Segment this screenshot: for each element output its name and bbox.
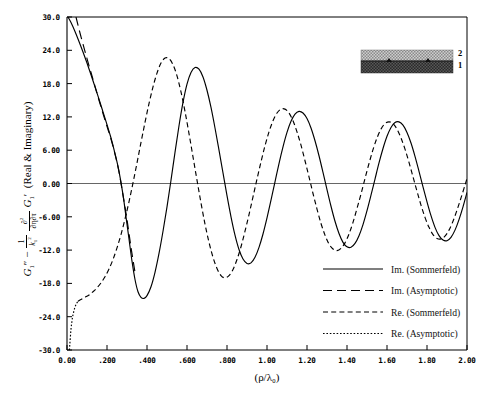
x-tick-label: 1.80	[418, 356, 436, 365]
inset-label-2: 2	[458, 48, 462, 58]
y-tick-label: 12.0	[43, 113, 61, 122]
x-tick-label: .600	[178, 356, 196, 365]
y-tick-label: -6.00	[38, 213, 60, 222]
legend-label: Im. (Sommerfeld)	[391, 264, 460, 276]
figure-container: 0.00.200.400.600.8001.001.201.401.601.80…	[0, 0, 499, 397]
y-tick-label: 6.00	[43, 146, 61, 155]
x-tick-label: 1.60	[378, 356, 396, 365]
series-im-asymptotic	[76, 17, 135, 272]
x-tick-label: 0.00	[58, 356, 76, 365]
x-tick-label: .200	[98, 356, 116, 365]
x-tick-label: 1.20	[298, 356, 316, 365]
x-axis-ticks	[67, 345, 467, 350]
x-tick-label: .800	[218, 356, 236, 365]
y-tick-label: 0.00	[43, 180, 61, 189]
y-tick-label: -12.0	[38, 246, 60, 255]
x-axis-tick-labels: 0.00.200.400.600.8001.001.201.401.601.80…	[58, 356, 476, 365]
y-axis-ticks	[67, 17, 72, 350]
inset-lower-layer	[361, 61, 453, 73]
legend-label: Re. (Asymptotic)	[391, 328, 458, 340]
inset-upper-layer	[361, 50, 453, 61]
y-tick-label: -18.0	[38, 279, 60, 288]
legend-label: Im. (Asymptotic)	[391, 285, 458, 297]
legend: Im. (Sommerfeld)Im. (Asymptotic)Re. (Som…	[323, 264, 460, 341]
x-tick-label: 1.40	[338, 356, 356, 365]
inset-label-1: 1	[458, 60, 462, 70]
x-axis-title: (ρ/λ₀)	[254, 371, 279, 384]
x-tick-label: .400	[138, 356, 156, 365]
y-axis-tick-labels: 30.024.018.012.06.000.00-6.00-12.0-18.0-…	[38, 13, 60, 355]
y-tick-label: 30.0	[43, 13, 61, 22]
y-tick-label: 24.0	[43, 46, 61, 55]
legend-label: Re. (Sommerfeld)	[391, 307, 460, 319]
x-tick-label: 1.00	[258, 356, 276, 365]
y-tick-label: 18.0	[43, 80, 61, 89]
x-tick-label: 2.00	[458, 356, 476, 365]
inset-media-diagram: 2 1	[361, 48, 462, 73]
y-tick-label: -24.0	[38, 313, 60, 322]
chart-svg: 0.00.200.400.600.8001.001.201.401.601.80…	[0, 0, 499, 397]
y-tick-label: -30.0	[38, 346, 60, 355]
series-re-asymptotic	[69, 301, 78, 350]
